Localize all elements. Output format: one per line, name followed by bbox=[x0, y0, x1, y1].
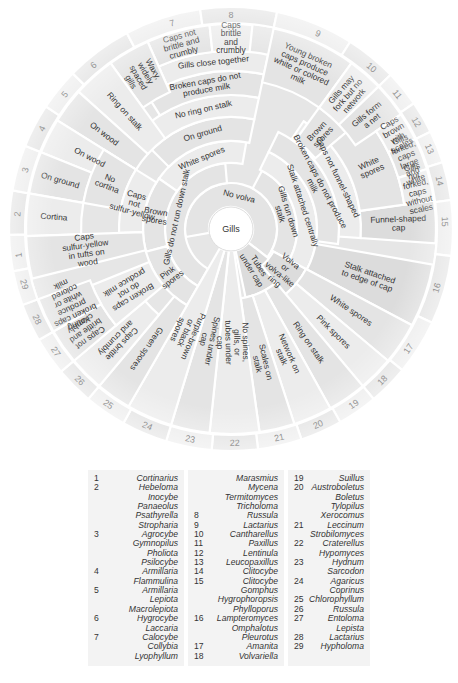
legend-number: 21 bbox=[294, 521, 308, 530]
legend-number bbox=[194, 493, 208, 502]
legend-column-1: 1Cortinarius2HebelomaInocybePanaeolusPsa… bbox=[88, 470, 184, 666]
legend-number bbox=[94, 502, 108, 511]
legend-number bbox=[94, 595, 108, 604]
legend-number: 16 bbox=[194, 614, 208, 623]
legend-number bbox=[94, 549, 108, 558]
legend-row: Lyophyllum bbox=[94, 652, 178, 661]
edge-fade bbox=[7, 5, 455, 453]
legend-genus: Hypholoma bbox=[308, 642, 364, 651]
legend-number: 29 bbox=[294, 642, 308, 651]
legend-number: 4 bbox=[94, 567, 108, 576]
legend-number bbox=[194, 483, 208, 492]
genus-legend: 1Cortinarius2HebelomaInocybePanaeolusPsa… bbox=[88, 470, 370, 666]
legend-number: 15 bbox=[194, 577, 208, 586]
legend-number bbox=[294, 493, 308, 502]
legend-number: 6 bbox=[94, 614, 108, 623]
legend-number: 23 bbox=[294, 558, 308, 567]
legend-number bbox=[94, 493, 108, 502]
legend-number bbox=[194, 474, 208, 483]
legend-column-3: 19Suillus20AustroboletusBoletusTylopilus… bbox=[288, 470, 370, 666]
legend-row: 29Hypholoma bbox=[294, 642, 364, 651]
legend-number: 24 bbox=[294, 577, 308, 586]
legend-number bbox=[94, 652, 108, 661]
legend-number: 27 bbox=[294, 614, 308, 623]
legend-number: 7 bbox=[94, 633, 108, 642]
legend-number: 3 bbox=[94, 530, 108, 539]
legend-number: 20 bbox=[294, 483, 308, 492]
legend-row: 18Volvariella bbox=[194, 652, 278, 661]
legend-number: 5 bbox=[94, 586, 108, 595]
legend-number bbox=[194, 586, 208, 595]
legend-column-2: MarasmiusMycenaTermitomycesTricholoma8Ru… bbox=[188, 470, 284, 666]
legend-number bbox=[94, 511, 108, 520]
legend-number: 2 bbox=[94, 483, 108, 492]
legend-number bbox=[94, 539, 108, 548]
legend-genus: Lyophyllum bbox=[108, 652, 178, 661]
legend-number: 18 bbox=[194, 652, 208, 661]
legend-number bbox=[194, 595, 208, 604]
legend-number bbox=[194, 624, 208, 633]
legend-genus: Volvariella bbox=[208, 652, 278, 661]
legend-number bbox=[94, 642, 108, 651]
key-wheel: 1234567891011121314151617181920212223242… bbox=[0, 0, 458, 460]
legend-number: 22 bbox=[294, 539, 308, 548]
legend-number bbox=[294, 502, 308, 511]
